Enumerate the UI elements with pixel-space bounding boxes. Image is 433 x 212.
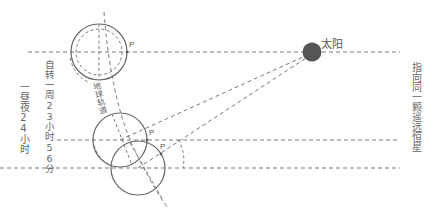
p-label-3: P xyxy=(160,142,165,151)
sidereal-day-label: 自转一周23小时56分 xyxy=(44,60,54,174)
star-direction-label: 指向同一颗遥远恒星 xyxy=(410,62,421,152)
sun-line-2 xyxy=(120,56,305,140)
p-label-2: P xyxy=(149,128,154,137)
sun-line-3 xyxy=(138,58,306,168)
p-point-2 xyxy=(146,139,149,142)
p-point-3 xyxy=(160,153,163,156)
angle-arc xyxy=(178,140,184,168)
p-point-1 xyxy=(126,51,129,54)
diagram-canvas xyxy=(0,0,433,212)
p-label-1: P xyxy=(129,40,134,49)
solar-day-label: 一昼夜24小时 xyxy=(18,82,29,154)
sun-icon xyxy=(303,43,322,62)
sun-label: 太阳 xyxy=(321,35,343,51)
